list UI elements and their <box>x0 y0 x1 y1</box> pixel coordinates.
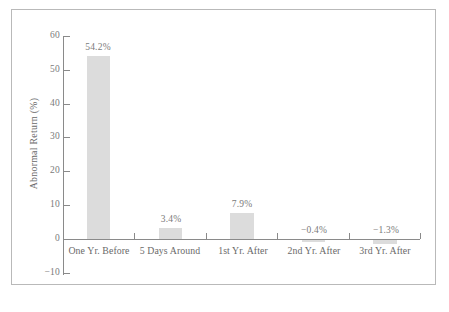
data-label-5-days-around: 3.4% <box>141 214 201 224</box>
x-axis-line <box>63 239 420 240</box>
y-tick-60 <box>64 36 70 37</box>
data-label-2nd-yr-after: −0.4% <box>283 225 345 235</box>
data-label-one-yr-before: 54.2% <box>68 42 128 52</box>
y-tick-0 <box>64 239 70 240</box>
bar-one-yr-before[interactable] <box>87 56 110 239</box>
x-category-label-2nd-yr-after: 2nd Yr. After <box>274 245 354 256</box>
x-category-label-5-days-around: 5 Days Around <box>128 245 212 256</box>
y-tick-50 <box>64 70 70 71</box>
x-tick-0 <box>63 233 64 239</box>
x-tick-1 <box>134 233 135 239</box>
chart-figure: Abnormal Return (%) 60 50 40 30 20 10 0 … <box>0 0 449 312</box>
x-tick-2 <box>206 233 207 239</box>
y-tick-30 <box>64 137 70 138</box>
y-tick-label-30: 30 <box>34 131 60 141</box>
bar-1st-yr-after[interactable] <box>230 213 254 239</box>
data-label-3rd-yr-after: −1.3% <box>355 225 417 235</box>
y-tick-neg10 <box>64 273 70 274</box>
data-label-1st-yr-after: 7.9% <box>212 199 272 209</box>
bar-3rd-yr-after[interactable] <box>373 240 397 244</box>
bar-2nd-yr-after[interactable] <box>302 240 325 242</box>
x-category-label-3rd-yr-after: 3rd Yr. After <box>345 245 425 256</box>
y-tick-40 <box>64 104 70 105</box>
x-tick-4 <box>349 233 350 239</box>
y-tick-label-60: 60 <box>34 30 60 40</box>
y-tick-label-50: 50 <box>34 64 60 74</box>
y-tick-label-10: 10 <box>34 199 60 209</box>
bar-5-days-around[interactable] <box>159 228 182 239</box>
y-tick-20 <box>64 171 70 172</box>
y-tick-10 <box>64 205 70 206</box>
x-tick-3 <box>277 233 278 239</box>
y-tick-label-20: 20 <box>34 165 60 175</box>
y-tick-label-neg10: −10 <box>34 267 60 277</box>
y-tick-label-40: 40 <box>34 98 60 108</box>
x-tick-5 <box>420 233 421 239</box>
x-category-label-1st-yr-after: 1st Yr. After <box>203 245 283 256</box>
plot-area: Abnormal Return (%) 60 50 40 30 20 10 0 … <box>0 0 449 312</box>
y-tick-label-0: 0 <box>34 233 60 243</box>
